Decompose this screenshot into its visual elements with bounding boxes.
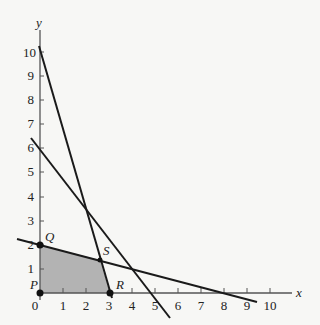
y-tick-label: 9	[28, 68, 35, 83]
y-tick-label: 1	[28, 261, 35, 276]
x-tick-label: 7	[198, 298, 205, 313]
point-q-label: Q	[45, 229, 55, 244]
point-r-dot	[107, 290, 114, 297]
y-tick-label: 2	[28, 237, 35, 252]
x-tick-label: 9	[244, 298, 251, 313]
x-tick-label: 4	[129, 298, 136, 313]
y-axis-label: y	[34, 15, 42, 30]
x-tick-label: 5	[152, 298, 159, 313]
y-tick-label: 8	[28, 92, 35, 107]
x-tick-label: 2	[83, 298, 90, 313]
x-tick-label: 6	[175, 298, 182, 313]
point-q-dot	[37, 242, 44, 249]
point-r-label: R	[115, 277, 124, 292]
y-tick-label: 10	[23, 45, 36, 60]
y-tick-label: 3	[28, 213, 35, 228]
point-s-dot	[98, 258, 103, 263]
point-p-label: P	[29, 277, 38, 292]
origin-label: 0	[32, 298, 39, 313]
feasible-region-diagram: 1 2 3 4 5 6 7 8 9 10 0 1 2 3 4 5 6 7 8 9…	[0, 0, 320, 325]
x-axis-label: x	[295, 285, 302, 300]
y-tick-label: 6	[28, 140, 35, 155]
x-tick-label: 10	[264, 298, 277, 313]
x-tick-label: 8	[221, 298, 228, 313]
y-tick-label: 5	[28, 164, 35, 179]
x-tick-label: 3	[106, 298, 113, 313]
y-tick-label: 7	[28, 116, 35, 131]
x-tick-label: 1	[60, 298, 67, 313]
y-tick-label: 4	[28, 189, 35, 204]
point-s-label: S	[103, 243, 110, 258]
